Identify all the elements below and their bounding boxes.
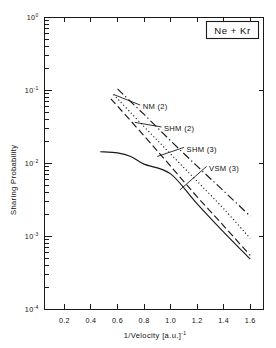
- x-tick-label: 1.4: [218, 316, 229, 325]
- y-axis-tick-labels: 10010-110-210-310-4: [25, 12, 39, 314]
- curve-label-shm-3: SHM (3): [187, 145, 218, 154]
- x-tick-label: 1.0: [165, 316, 176, 325]
- curve-label-nm-2: NM (2): [143, 102, 168, 111]
- x-axis-tick-labels: 0.20.40.60.81.01.21.41.6: [59, 316, 256, 325]
- curve-label-shm-2: SHM (2): [164, 124, 195, 133]
- x-tick-label: 0.6: [112, 316, 123, 325]
- x-tick-label: 1.6: [245, 316, 256, 325]
- x-axis-title-main: 1/Velocity [a.u.]: [124, 331, 181, 340]
- x-tick-label: 0.4: [86, 316, 97, 325]
- x-tick-label: 1.2: [192, 316, 203, 325]
- system-label-text: Ne + Kr: [214, 25, 251, 36]
- x-axis-title-exponent: -1: [181, 330, 186, 336]
- y-tick-label: 10-2: [25, 158, 39, 168]
- y-tick-label: 10-4: [25, 304, 39, 314]
- y-tick-label: 10-1: [25, 85, 39, 95]
- x-tick-label: 0.2: [59, 316, 70, 325]
- y-axis-title: Sharing Probability: [9, 145, 18, 215]
- figure-container: 10010-110-210-310-4 0.20.40.60.81.01.21.…: [0, 0, 276, 348]
- y-tick-label: 100: [27, 12, 39, 22]
- x-axis-title: 1/Velocity [a.u.]-1: [124, 330, 187, 340]
- y-tick-label: 10-3: [25, 231, 39, 241]
- x-tick-label: 0.8: [139, 316, 150, 325]
- curve-label-vsm-3: VSM (3): [209, 164, 239, 173]
- sharing-probability-chart: 10010-110-210-310-4 0.20.40.60.81.01.21.…: [0, 0, 276, 348]
